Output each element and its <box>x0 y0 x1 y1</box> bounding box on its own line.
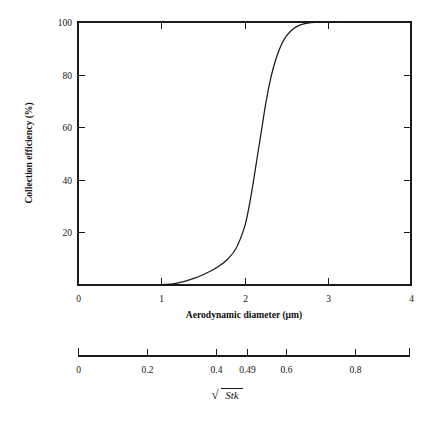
secondary-stk-axis: 00.20.40.490.60.8 <box>76 348 410 375</box>
x-axis-ticks-top <box>162 22 329 29</box>
stk-tick-label-0: 0 <box>76 365 81 375</box>
stk-tick-label-0.49: 0.49 <box>239 365 256 375</box>
x-tick-label-1: 1 <box>159 294 164 304</box>
stk-tick-label-0.2: 0.2 <box>142 365 154 375</box>
y-axis-ticks-right <box>404 76 411 233</box>
stk-symbol-label: Stk <box>225 389 240 401</box>
sqrt-radical-glyph: √ <box>211 387 219 402</box>
efficiency-curve <box>78 22 411 285</box>
y-axis-title: Collection efficiency (%) <box>23 102 35 203</box>
x-tick-label-2: 2 <box>243 294 248 304</box>
x-tick-label-3: 3 <box>326 294 331 304</box>
x-axis-title: Aerodynamic diameter (μm) <box>186 309 302 321</box>
x-axis-ticks-bottom <box>162 278 329 285</box>
y-axis-tick-labels: 20406080100 <box>58 18 73 238</box>
y-tick-label-40: 40 <box>63 176 73 186</box>
y-tick-label-20: 20 <box>63 228 73 238</box>
stk-axis-tick-labels: 00.20.40.490.60.8 <box>76 365 362 375</box>
stk-tick-label-0.8: 0.8 <box>350 365 362 375</box>
stk-axis-title: √ Stk <box>211 387 243 402</box>
stk-tick-label-0.6: 0.6 <box>281 365 293 375</box>
y-tick-label-100: 100 <box>58 18 73 28</box>
stk-axis-ticks <box>148 349 356 356</box>
x-tick-label-0: 0 <box>76 294 81 304</box>
y-tick-label-80: 80 <box>63 71 73 81</box>
collection-efficiency-chart: 20406080100 01234 Aerodynamic diameter (… <box>0 0 434 424</box>
y-tick-label-60: 60 <box>63 123 73 133</box>
figure-container: 20406080100 01234 Aerodynamic diameter (… <box>0 0 434 424</box>
x-axis-tick-labels: 01234 <box>76 294 414 304</box>
plot-frame <box>78 22 411 285</box>
x-tick-label-4: 4 <box>409 294 414 304</box>
y-axis-ticks-left <box>78 76 85 233</box>
stk-tick-label-0.4: 0.4 <box>211 365 223 375</box>
